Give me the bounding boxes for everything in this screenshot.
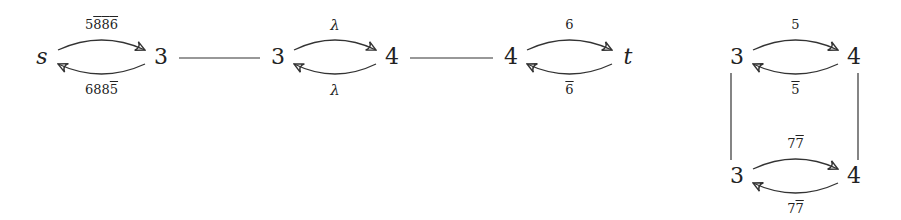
node-t: t [624,46,633,68]
label-char: 6 [565,17,573,32]
arrow-backward [58,64,145,74]
label-char: 5 [791,17,799,32]
node-n1: 3 [154,46,168,68]
edge-label: 77 [787,202,804,216]
label-char: 8 [93,82,101,97]
arrow-backward [753,183,838,193]
label-char: λ [330,81,340,99]
node-r3: 3 [730,165,744,187]
label-char: 8 [93,17,101,32]
arrow-forward [294,40,376,50]
node-n4: 4 [504,46,518,68]
edge-label: λ [330,18,340,32]
edge-label: 6885 [85,83,118,97]
arrow-backward [294,64,376,74]
edge-label: λ [330,83,340,97]
label-char: 7 [796,201,804,216]
edge-label: 5886 [85,18,118,32]
edge-label: 77 [787,137,804,151]
label-char: 5 [110,82,118,97]
arrow-backward [753,64,838,74]
node-s: s [36,46,47,68]
label-char: 5 [791,82,799,97]
node-r1: 3 [730,46,744,68]
arrow-forward [753,40,838,50]
arrow-forward [753,159,838,169]
label-char: 8 [102,17,110,32]
edge-label: 5 [791,18,799,32]
node-n2: 3 [271,46,285,68]
label-char: 8 [102,82,110,97]
label-char: 7 [796,136,804,151]
edge-label: 5 [791,83,799,97]
label-char: 6 [565,82,573,97]
node-r2: 4 [847,46,861,68]
label-char: 6 [110,17,118,32]
node-n3: 4 [385,46,399,68]
arrow-forward [527,40,612,50]
edges-layer [0,0,901,220]
edge-label: 6 [565,83,573,97]
label-char: λ [330,16,340,34]
arrow-backward [527,64,612,74]
node-r4: 4 [847,165,861,187]
edge-label: 6 [565,18,573,32]
arrow-forward [58,40,145,50]
